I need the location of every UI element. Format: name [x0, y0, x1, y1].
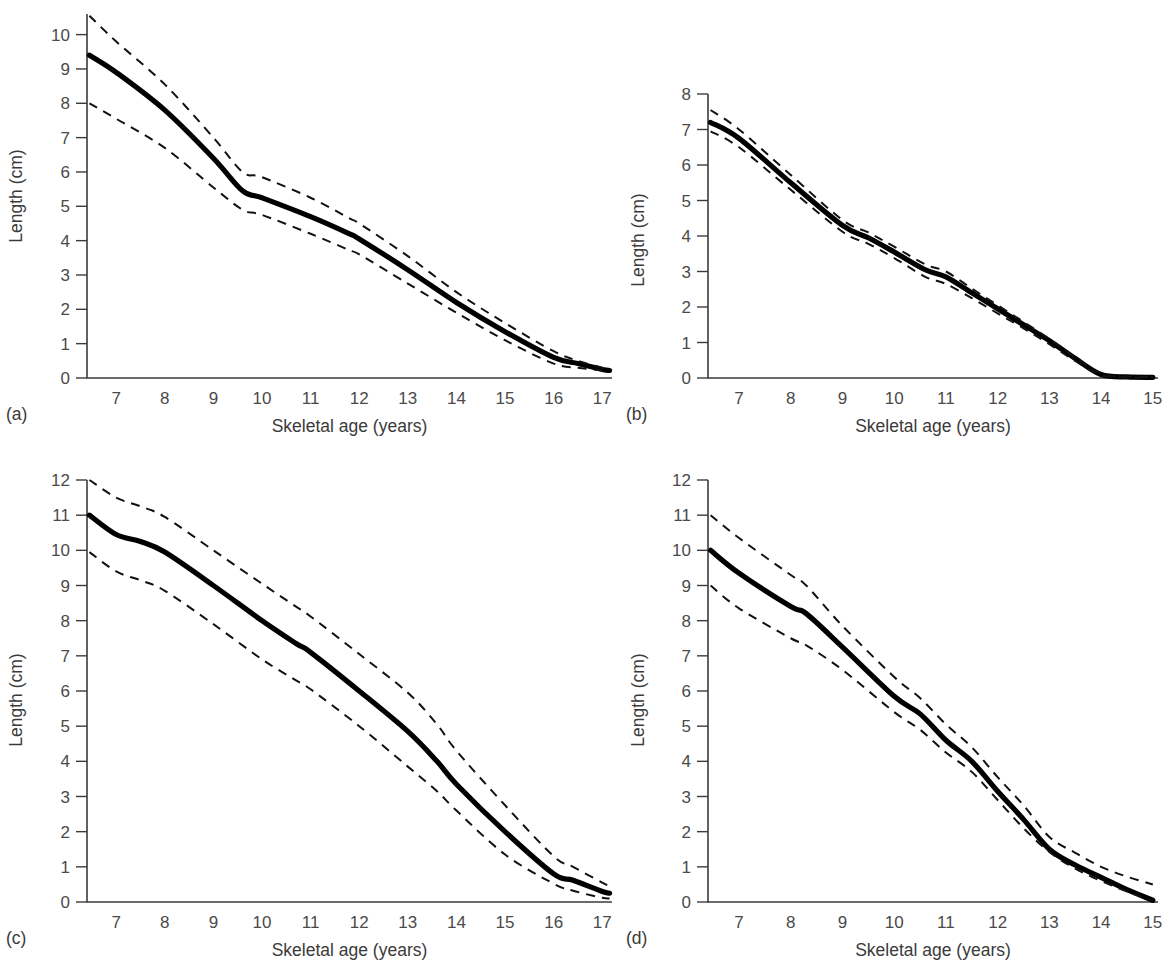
y-axis-tick-label: 5: [61, 717, 70, 736]
x-axis-tick-label: 8: [786, 389, 795, 408]
y-axis-tick-label: 9: [61, 60, 70, 79]
x-axis-tick-label: 10: [885, 389, 904, 408]
y-axis-tick-label: 5: [61, 197, 70, 216]
x-axis-tick-label: 12: [988, 913, 1007, 932]
mean-curve-line: [711, 550, 1153, 900]
confidence-band-line: [711, 515, 1153, 884]
y-axis-tick-label: 6: [61, 163, 70, 182]
y-axis-tick-label: 11: [52, 506, 70, 525]
y-axis-tick-label: 2: [61, 823, 70, 842]
y-axis-tick-label: 2: [61, 300, 70, 319]
x-axis-tick-label: 11: [937, 389, 955, 408]
axis-lines: [87, 14, 612, 378]
chart-svg-c: 01234567891011127891011121314151617Skele…: [0, 460, 620, 964]
x-axis-tick-label: 15: [1143, 913, 1162, 932]
x-axis-tick-label: 9: [209, 389, 218, 408]
x-axis-tick-label: 11: [302, 389, 320, 408]
y-axis-tick-label: 10: [672, 541, 691, 560]
y-axis-tick-label: 7: [682, 121, 691, 140]
panel-label-a: (a): [6, 404, 27, 424]
x-axis-tick-label: 17: [593, 389, 612, 408]
y-axis-tick-label: 7: [682, 647, 691, 666]
x-axis-tick-label: 8: [160, 389, 169, 408]
x-axis-tick-label: 7: [111, 913, 120, 932]
x-axis-tick-label: 12: [350, 913, 369, 932]
x-axis-tick-label: 15: [496, 389, 515, 408]
y-axis-tick-label: 3: [682, 788, 691, 807]
y-axis-title: Length (cm): [628, 193, 648, 286]
y-axis-tick-label: 8: [61, 612, 70, 631]
x-axis-tick-label: 13: [398, 389, 417, 408]
axis-lines: [87, 480, 612, 902]
panel-label-b: (b): [626, 404, 647, 424]
y-axis-tick-label: 12: [51, 471, 70, 490]
y-axis-tick-label: 8: [682, 85, 691, 104]
y-axis-tick-label: 4: [682, 752, 691, 771]
x-axis-tick-label: 10: [885, 913, 904, 932]
x-axis-tick-label: 14: [447, 389, 466, 408]
x-axis-title: Skeletal age (years): [855, 940, 1011, 960]
x-axis-tick-label: 7: [734, 389, 743, 408]
y-axis-tick-label: 1: [61, 858, 70, 877]
chart-panel-c: 01234567891011127891011121314151617Skele…: [0, 460, 620, 964]
chart-panel-a: 0123456789107891011121314151617Skeletal …: [0, 0, 620, 460]
x-axis-tick-label: 10: [253, 913, 272, 932]
x-axis-tick-label: 9: [838, 913, 847, 932]
y-axis-tick-label: 9: [682, 577, 691, 596]
x-axis-tick-label: 16: [544, 913, 563, 932]
x-axis-tick-label: 8: [786, 913, 795, 932]
x-axis-tick-label: 14: [447, 913, 466, 932]
y-axis-tick-label: 4: [61, 752, 70, 771]
y-axis-tick-label: 5: [682, 717, 691, 736]
x-axis-tick-label: 14: [1092, 913, 1111, 932]
x-axis-tick-label: 17: [593, 913, 612, 932]
chart-svg-d: 0123456789101112789101112131415Skeletal …: [620, 460, 1164, 964]
y-axis-tick-label: 8: [682, 612, 691, 631]
x-axis-tick-label: 12: [350, 389, 369, 408]
x-axis-tick-label: 12: [988, 389, 1007, 408]
y-axis-tick-label: 7: [61, 129, 70, 148]
x-axis-tick-label: 13: [1040, 913, 1059, 932]
panel-label-d: (d): [626, 928, 647, 948]
x-axis-tick-label: 9: [838, 389, 847, 408]
y-axis-tick-label: 11: [673, 506, 691, 525]
x-axis-tick-label: 13: [398, 913, 417, 932]
confidence-band-line: [711, 110, 1153, 377]
y-axis-tick-label: 3: [61, 266, 70, 285]
y-axis-tick-label: 0: [682, 369, 691, 388]
y-axis-tick-label: 1: [682, 334, 691, 353]
y-axis-tick-label: 6: [682, 682, 691, 701]
x-axis-tick-label: 14: [1092, 389, 1111, 408]
y-axis-tick-label: 9: [61, 577, 70, 596]
x-axis-title: Skeletal age (years): [855, 416, 1011, 436]
x-axis-tick-label: 16: [544, 389, 563, 408]
x-axis-tick-label: 7: [734, 913, 743, 932]
y-axis-tick-label: 3: [682, 263, 691, 282]
y-axis-title: Length (cm): [6, 653, 26, 746]
x-axis-tick-label: 11: [937, 913, 955, 932]
y-axis-tick-label: 6: [61, 682, 70, 701]
x-axis-title: Skeletal age (years): [272, 416, 428, 436]
y-axis-tick-label: 4: [682, 227, 691, 246]
chart-svg-b: 012345678789101112131415Skeletal age (ye…: [620, 0, 1164, 460]
y-axis-tick-label: 0: [61, 893, 70, 912]
y-axis-tick-label: 2: [682, 298, 691, 317]
confidence-band-line: [89, 552, 609, 898]
x-axis-tick-label: 10: [253, 389, 272, 408]
y-axis-tick-label: 10: [51, 541, 70, 560]
panel-label-c: (c): [6, 928, 26, 948]
chart-svg-a: 0123456789107891011121314151617Skeletal …: [0, 0, 620, 460]
chart-panel-b: 012345678789101112131415Skeletal age (ye…: [620, 0, 1164, 460]
y-axis-tick-label: 8: [61, 94, 70, 113]
y-axis-tick-label: 2: [682, 823, 691, 842]
x-axis-tick-label: 15: [1143, 389, 1162, 408]
growth-remaining-figure: 0123456789107891011121314151617Skeletal …: [0, 0, 1164, 964]
confidence-band-line: [711, 586, 1153, 901]
x-axis-title: Skeletal age (years): [272, 940, 428, 960]
mean-curve-line: [711, 122, 1153, 377]
axis-lines: [708, 480, 1158, 902]
y-axis-tick-label: 3: [61, 788, 70, 807]
y-axis-tick-label: 0: [61, 369, 70, 388]
y-axis-tick-label: 1: [61, 335, 70, 354]
x-axis-tick-label: 8: [160, 913, 169, 932]
